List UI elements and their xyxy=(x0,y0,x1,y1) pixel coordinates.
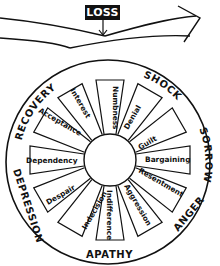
spoke-bargaining: Bargaining xyxy=(145,155,190,164)
stage-apathy: APATHY xyxy=(86,249,133,260)
loss-label: LOSS xyxy=(86,6,119,19)
spoke-numbness: Numbness xyxy=(111,86,120,130)
spoke-indecision: Indecision xyxy=(80,190,109,231)
spoke-guilt: Guilt xyxy=(137,134,159,152)
wheel-graphic: Numbness Denial Guilt Bargaining Resentm… xyxy=(0,0,220,266)
spoke-acceptance: Acceptance xyxy=(37,106,83,138)
spoke-resentment: Resentment xyxy=(137,166,186,199)
loss-label-box: LOSS xyxy=(85,5,120,20)
spoke-despair: Despair xyxy=(45,183,78,207)
wheel-hub xyxy=(84,134,136,186)
stage-sorrow: SORROW xyxy=(197,126,214,184)
stage-anger: ANGER xyxy=(171,194,206,233)
spoke-dependency: Dependency xyxy=(26,156,78,165)
grief-wheel-diagram: LOSS xyxy=(0,0,220,266)
stage-shock: SHOCK xyxy=(142,69,184,103)
